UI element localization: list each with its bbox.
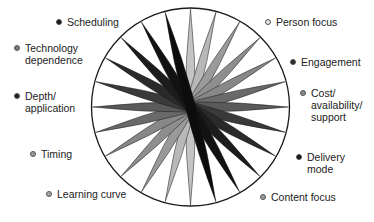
legend-dot-icon — [265, 19, 271, 25]
legend-item-content-focus: Content focus — [260, 191, 336, 203]
legend-item-timing: Timing — [30, 148, 72, 160]
legend-dot-icon — [14, 45, 20, 51]
legend-dot-icon — [296, 154, 302, 160]
legend-item-depth-application: Depth/ application — [14, 90, 75, 114]
legend-label: Scheduling — [56, 16, 119, 28]
legend-item-technology-dependence: Technology dependence — [14, 42, 83, 66]
legend-label: Cost/ availability/ support — [300, 87, 362, 123]
legend-item-engagement: Engagement — [290, 56, 361, 68]
legend-item-delivery-mode: Delivery mode — [296, 151, 345, 175]
legend-label: Depth/ application — [14, 90, 75, 114]
legend-label: Delivery mode — [296, 151, 345, 175]
legend-dot-icon — [30, 151, 36, 157]
legend-label: Learning curve — [46, 188, 126, 200]
legend-dot-icon — [290, 59, 296, 65]
legend-dot-icon — [260, 194, 266, 200]
legend-item-scheduling: Scheduling — [56, 16, 119, 28]
legend-dot-icon — [56, 19, 62, 25]
legend-dot-icon — [14, 93, 20, 99]
legend-dot-icon — [300, 90, 306, 96]
spindle-group — [93, 9, 289, 205]
legend-item-person-focus: Person focus — [265, 16, 337, 28]
legend-label: Person focus — [265, 16, 337, 28]
legend-label: Timing — [30, 148, 72, 160]
legend-dot-icon — [46, 191, 52, 197]
legend-item-cost-availability-support: Cost/ availability/ support — [300, 87, 362, 123]
legend-label: Technology dependence — [14, 42, 83, 66]
legend-item-learning-curve: Learning curve — [46, 188, 126, 200]
legend-label: Engagement — [290, 56, 361, 68]
legend-label: Content focus — [260, 191, 336, 203]
